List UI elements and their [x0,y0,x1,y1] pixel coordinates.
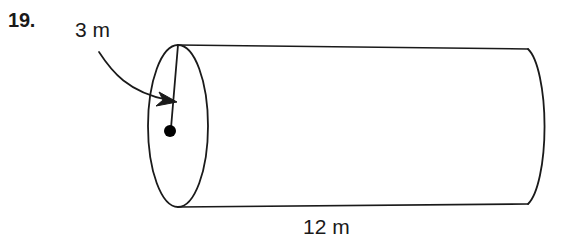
cylinder-body-fill [178,45,545,207]
length-label: 12 m [303,216,350,237]
worksheet-figure-page: 19. 3 m 12 m [0,0,571,246]
center-point-dot [164,125,176,137]
radius-label: 3 m [75,19,110,40]
cylinder-left-base-ellipse [148,45,208,207]
